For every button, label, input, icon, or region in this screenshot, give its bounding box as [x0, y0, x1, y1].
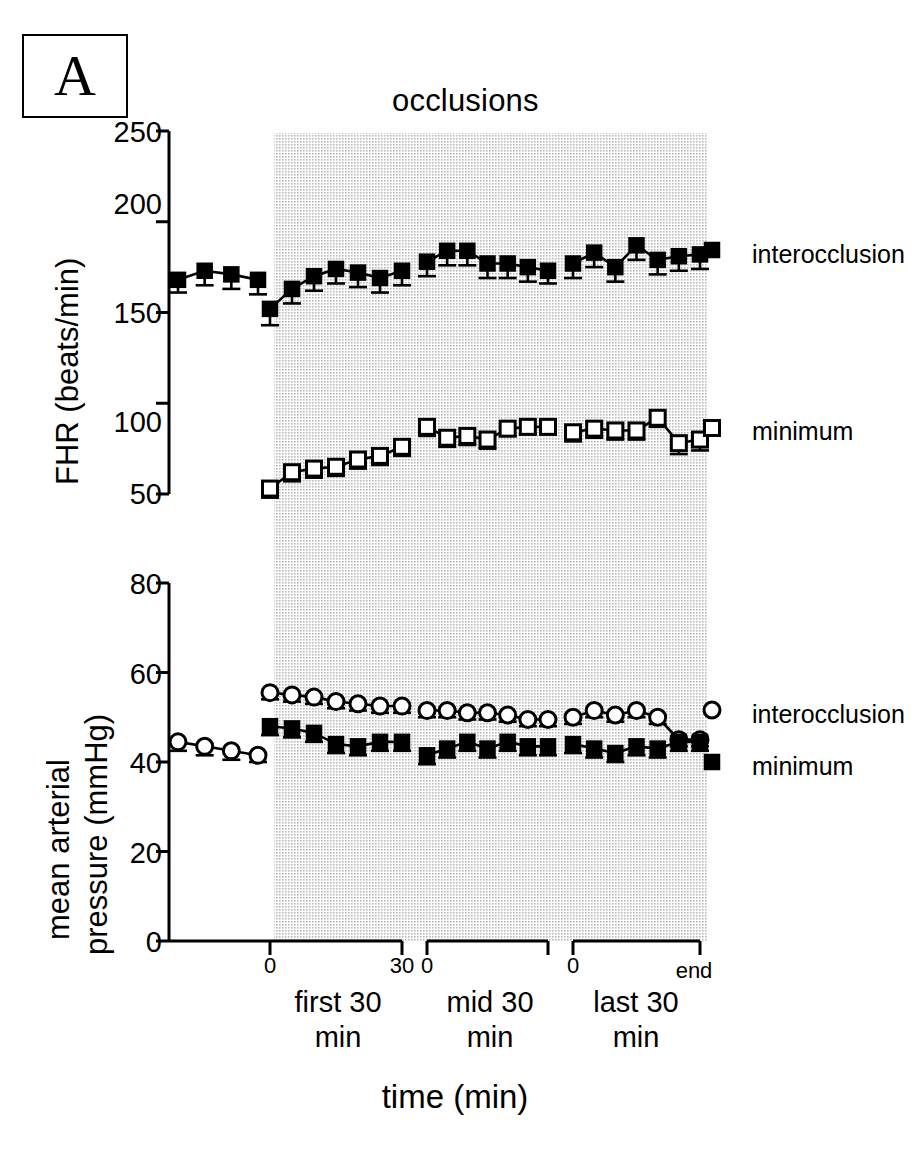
bottom-ytick-80: 80: [86, 568, 162, 601]
xtick-seg2-start: 0: [407, 953, 447, 979]
bottom-ytick-60: 60: [86, 658, 162, 691]
panel-letter: A: [24, 36, 126, 116]
bottom-yaxis-title-line1: mean arterial: [42, 759, 76, 940]
legend-bottom-interocclusion: interocclusion: [752, 700, 905, 729]
xaxis-title: time (min): [305, 1078, 605, 1116]
top-yaxis-title: FHR (beats/min): [50, 258, 86, 485]
figure-panel-a: A occlusions 250 200 150 100 50 80 60 40…: [0, 0, 914, 1149]
top-ytick-250: 250: [86, 116, 162, 149]
chart-title: occlusions: [392, 83, 539, 119]
xtick-seg1-start: 0: [250, 953, 290, 979]
bottom-yaxis-title-line2: pressure (mmHg): [80, 714, 114, 955]
xgroup-last30-line2: min: [566, 1021, 706, 1053]
xtick-seg3-start: 0: [553, 953, 593, 979]
xtick-seg3-end: end: [660, 958, 728, 984]
top-ytick-50: 50: [86, 478, 162, 511]
xgroup-first30-line2: min: [268, 1021, 408, 1053]
occlusion-shaded-region: [274, 133, 707, 941]
top-ytick-200: 200: [86, 188, 162, 221]
data-series: [169, 238, 720, 770]
legend-bottom-minimum: minimum: [752, 752, 853, 781]
xgroup-mid30-line1: mid 30: [420, 986, 560, 1018]
top-ytick-100: 100: [86, 406, 162, 439]
xgroup-mid30-line2: min: [420, 1021, 560, 1053]
legend-top-minimum: minimum: [752, 417, 853, 446]
panel-letter-box: A: [22, 34, 128, 118]
xgroup-first30-line1: first 30: [268, 986, 408, 1018]
top-ytick-150: 150: [86, 297, 162, 330]
xgroup-last30-line1: last 30: [566, 986, 706, 1018]
axes: [156, 131, 700, 955]
legend-top-interocclusion: interocclusion: [752, 240, 905, 269]
